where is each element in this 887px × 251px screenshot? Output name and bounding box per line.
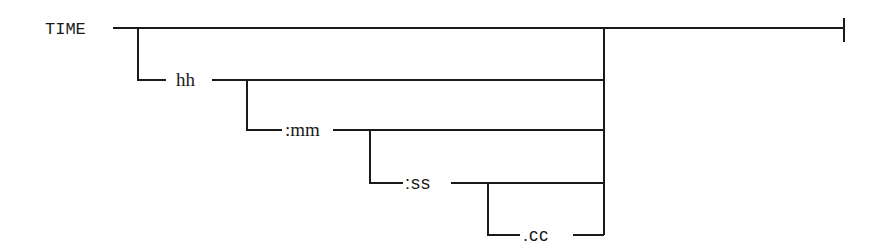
token-ss: :ss	[405, 173, 431, 193]
branch-hh-line	[138, 28, 166, 80]
keyword-time: TIME	[45, 20, 86, 39]
token-mm: :mm	[285, 119, 320, 140]
branch-cc-line	[488, 183, 520, 235]
token-cc: .cc	[523, 225, 549, 245]
branch-mm-line	[247, 80, 282, 130]
branch-ss-line	[370, 130, 403, 183]
token-hh: hh	[176, 69, 196, 90]
syntax-diagram: TIME hh :mm :ss .cc	[0, 0, 887, 251]
